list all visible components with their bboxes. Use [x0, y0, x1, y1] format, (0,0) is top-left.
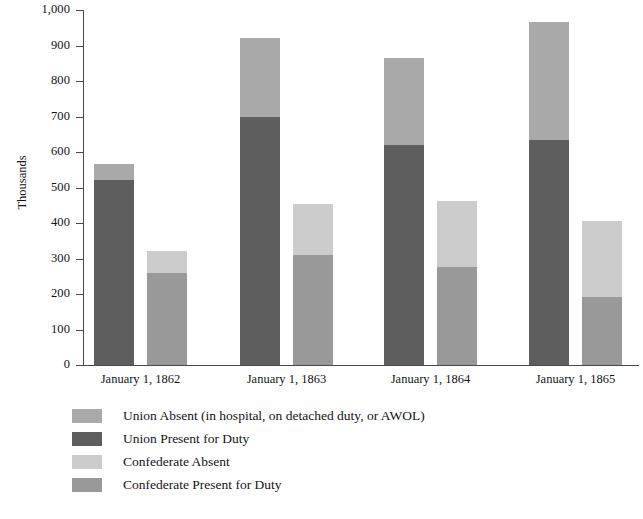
- segment-absent: [582, 221, 622, 297]
- y-tick-mark: [76, 259, 83, 260]
- bar-confederate-11863: [293, 204, 333, 365]
- legend-swatch: [72, 409, 102, 423]
- legend-label: Union Present for Duty: [123, 432, 249, 446]
- segment-present: [293, 255, 333, 365]
- segment-absent: [529, 22, 569, 139]
- segment-absent: [147, 251, 187, 273]
- legend-label: Union Absent (in hospital, on detached d…: [123, 409, 425, 423]
- segment-absent: [384, 58, 424, 145]
- segment-absent: [437, 201, 477, 267]
- legend-swatch: [72, 432, 102, 446]
- y-tick-mark: [76, 152, 83, 153]
- legend-item: Union Absent (in hospital, on detached d…: [72, 404, 425, 427]
- y-tick-mark: [76, 294, 83, 295]
- legend-item: Union Present for Duty: [72, 427, 425, 450]
- y-tick-mark: [76, 223, 83, 224]
- y-tick-mark: [76, 117, 83, 118]
- bar-union-11865: [529, 22, 569, 365]
- bar-confederate-11864: [437, 201, 477, 365]
- segment-present: [529, 140, 569, 365]
- x-axis-line: [83, 365, 639, 366]
- y-tick-label: 600: [0, 145, 70, 158]
- segment-absent: [94, 164, 134, 180]
- legend-item: Confederate Absent: [72, 450, 425, 473]
- legend-item: Confederate Present for Duty: [72, 473, 425, 496]
- y-tick-label: 400: [0, 216, 70, 229]
- segment-present: [437, 267, 477, 365]
- y-tick-label: 500: [0, 181, 70, 194]
- y-tick-label: 800: [0, 74, 70, 87]
- bar-union-11863: [240, 38, 280, 365]
- segment-present: [582, 297, 622, 365]
- x-axis-label: January 1, 1863: [217, 372, 357, 387]
- y-tick-mark: [76, 81, 83, 82]
- bar-chart: Thousands 01002003004005006007008009001,…: [0, 0, 643, 519]
- bar-union-11862: [94, 164, 134, 365]
- y-tick-mark: [76, 46, 83, 47]
- segment-present: [147, 273, 187, 365]
- x-axis-label: January 1, 1862: [71, 372, 211, 387]
- legend-label: Confederate Absent: [123, 455, 230, 469]
- y-tick-label: 1,000: [0, 3, 70, 16]
- segment-absent: [240, 38, 280, 116]
- legend-swatch: [72, 478, 102, 492]
- y-tick-label: 900: [0, 39, 70, 52]
- segment-present: [384, 145, 424, 365]
- y-tick-mark: [76, 330, 83, 331]
- bar-union-11864: [384, 58, 424, 365]
- y-tick-mark: [76, 10, 83, 11]
- plot-area: [83, 10, 639, 365]
- segment-absent: [293, 204, 333, 255]
- y-tick-label: 700: [0, 110, 70, 123]
- bar-confederate-11865: [582, 221, 622, 365]
- y-tick-label: 200: [0, 287, 70, 300]
- segment-present: [240, 117, 280, 366]
- segment-present: [94, 180, 134, 365]
- x-axis-label: January 1, 1864: [361, 372, 501, 387]
- bar-confederate-11862: [147, 251, 187, 365]
- legend-swatch: [72, 455, 102, 469]
- y-tick-label: 300: [0, 252, 70, 265]
- y-tick-mark: [76, 365, 83, 366]
- x-axis-label: January 1, 1865: [506, 372, 643, 387]
- y-tick-label: 0: [0, 358, 70, 371]
- y-tick-mark: [76, 188, 83, 189]
- y-tick-label: 100: [0, 323, 70, 336]
- chart-legend: Union Absent (in hospital, on detached d…: [72, 404, 425, 496]
- legend-label: Confederate Present for Duty: [123, 478, 282, 492]
